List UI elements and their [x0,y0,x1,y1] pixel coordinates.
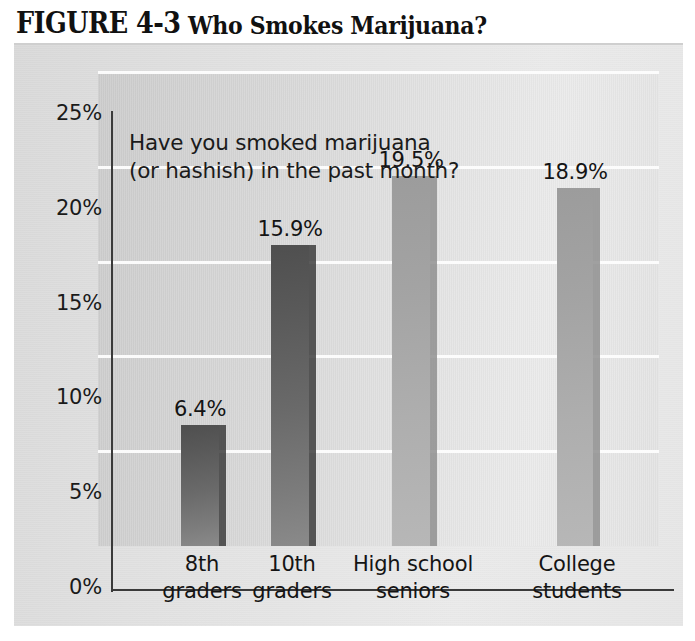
figure-number: FIGURE 4-3 [16,6,180,40]
bar-fill [557,188,593,546]
bar-fill [271,245,309,546]
bar-shadow [219,425,226,546]
y-axis-line [111,111,113,592]
bar-shadow [430,176,437,546]
chart-annotation: Have you smoked marijuana (or hashish) i… [129,129,459,185]
bar: 15.9% [271,245,309,546]
bar-value-label: 15.9% [257,217,322,241]
bar-fill [181,425,219,546]
y-tick-label: 5% [30,480,102,504]
y-tick-label: 15% [30,291,102,315]
bar-fill [392,176,430,546]
y-tick-label: 10% [30,385,102,409]
figure-title: FIGURE 4-3 Who Smokes Marijuana? [16,6,676,40]
figure-panel: 6.4%15.9%19.5%18.9% Have you smoked mari… [14,43,683,626]
y-tick-label: 25% [30,101,102,125]
gridline [98,71,659,74]
bar-value-label: 6.4% [174,397,226,421]
x-axis-category-labels: 8th graders10th gradersHigh school senio… [98,551,659,621]
y-tick-label: 20% [30,196,102,220]
y-axis-tick-labels: 0%5%10%15%20%25% [24,88,102,641]
bar: 19.5% [392,176,430,546]
bar: 18.9% [557,188,593,546]
bar-shadow [593,188,600,546]
bar: 6.4% [181,425,219,546]
y-tick-label: 0% [30,575,102,599]
x-category-label: High school seniors [333,551,493,605]
figure-caption: Who Smokes Marijuana? [188,11,487,40]
x-category-label: College students [497,551,657,605]
bar-value-label: 18.9% [542,160,607,184]
bar-shadow [309,245,316,546]
